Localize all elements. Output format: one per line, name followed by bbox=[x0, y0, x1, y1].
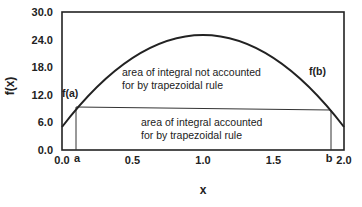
x-tick-label: 0.0 bbox=[54, 154, 69, 166]
accounted-label-line2: for by trapezoidal rule bbox=[141, 129, 242, 141]
y-tick-label: 0.0 bbox=[38, 144, 53, 156]
x-axis-label: x bbox=[200, 183, 207, 197]
x-tick-label: 1.5 bbox=[266, 154, 281, 166]
y-axis-ticks: 30.0 24.0 18.0 12.0 6.0 0.0 bbox=[32, 6, 53, 156]
accounted-label-line1: area of integral accounted bbox=[141, 116, 263, 128]
x-tick-label: 2.0 bbox=[336, 154, 351, 166]
fa-label: f(a) bbox=[62, 87, 78, 99]
not-accounted-label-line2: for by trapezoidal rule bbox=[122, 79, 223, 91]
y-tick-label: 12.0 bbox=[32, 89, 53, 101]
not-accounted-label-line1: area of integral not accounted bbox=[122, 66, 261, 78]
marker-a-label: a bbox=[74, 152, 81, 164]
x-tick-label: 1.0 bbox=[195, 154, 210, 166]
y-tick-label: 6.0 bbox=[38, 116, 53, 128]
y-tick-label: 24.0 bbox=[32, 34, 53, 46]
y-tick-label: 18.0 bbox=[32, 61, 53, 73]
y-tick-label: 30.0 bbox=[32, 6, 53, 18]
chart: 30.0 24.0 18.0 12.0 6.0 0.0 0.0 0.5 1.0 … bbox=[0, 0, 362, 207]
y-axis-label: f(x) bbox=[3, 77, 17, 96]
marker-b-label: b bbox=[326, 152, 333, 164]
x-axis-ticks: 0.0 0.5 1.0 1.5 2.0 a b bbox=[54, 152, 351, 166]
x-tick-label: 0.5 bbox=[125, 154, 140, 166]
fb-label: f(b) bbox=[309, 65, 326, 77]
